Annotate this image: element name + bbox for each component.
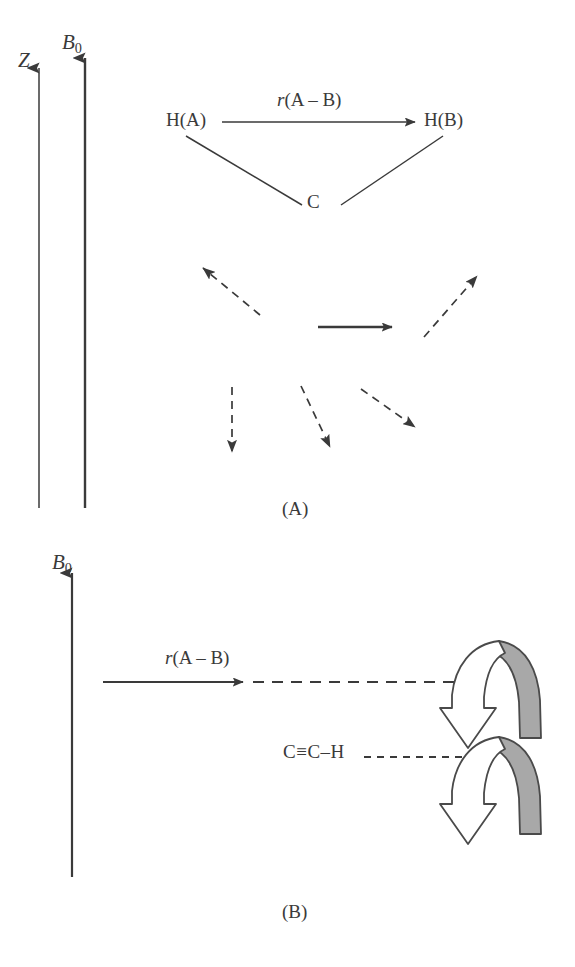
distance-label-panel-a: r(A – B) — [277, 90, 341, 109]
dashed-arrow-up-right — [424, 276, 477, 337]
atom-label-c: C — [307, 192, 320, 211]
curved-ribbon-arrow-upper-hollow — [440, 641, 505, 748]
bond-hb-to-c — [341, 136, 443, 205]
b0-axis-label-panel-a: B0 — [62, 32, 82, 55]
panel-a-axes — [39, 58, 85, 508]
b0-axis-label-panel-a-base: B — [62, 30, 75, 54]
caption-panel-b: (B) — [282, 902, 307, 921]
molecule-label-panel-b: C≡C–H — [283, 742, 345, 761]
dashed-arrow-down-right-steep — [301, 386, 330, 447]
atom-label-ha: H(A) — [166, 110, 206, 129]
distance-label-panel-a-args: (A – B) — [284, 89, 341, 110]
dashed-arrow-down-right-shallow — [361, 389, 415, 427]
bond-ha-to-c — [186, 136, 302, 205]
atom-label-hb: H(B) — [424, 110, 463, 129]
distance-label-panel-b-args: (A – B) — [172, 647, 229, 668]
z-axis-label: Z — [18, 50, 30, 71]
figure-root: Z B0 H(A) H(B) C r(A – B) (A) B0 r(A – B… — [0, 0, 575, 967]
vector-field-panel-a — [203, 268, 477, 452]
b0-axis-label-panel-b-base: B — [52, 550, 65, 574]
distance-label-panel-b: r(A – B) — [165, 648, 229, 667]
dashed-arrow-up-left — [203, 268, 260, 315]
curved-ribbon-arrow-lower-hollow — [440, 737, 505, 844]
b0-axis-label-panel-b: B0 — [52, 552, 72, 575]
caption-panel-a: (A) — [282, 499, 308, 518]
b0-axis-label-panel-b-subscript: 0 — [65, 560, 72, 576]
figure-canvas — [0, 0, 575, 967]
b0-axis-label-panel-a-subscript: 0 — [75, 40, 82, 56]
curved-ribbon-arrow-upper — [440, 641, 541, 748]
curved-ribbon-arrow-lower — [440, 737, 541, 844]
